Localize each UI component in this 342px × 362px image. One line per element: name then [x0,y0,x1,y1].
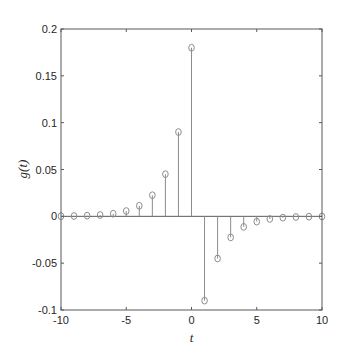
y-tick-label: 0.05 [36,164,57,176]
y-tick-label: 0.2 [42,23,57,35]
x-tick-label: -5 [121,314,131,326]
x-tick-label: 10 [316,314,328,326]
y-ticks: -0.1-0.0500.050.10.150.2 [32,23,322,316]
x-tick-label: 5 [254,314,260,326]
x-tick-label: 0 [188,314,194,326]
stem-marker [293,214,299,221]
stems [58,44,325,304]
y-axis-label: g(t) [15,160,30,179]
stem-chart: -10-50510 -0.1-0.0500.050.10.150.2 t g(t… [0,0,342,362]
x-axis-label: t [190,330,194,345]
y-tick-label: -0.05 [32,257,57,269]
x-ticks: -10-50510 [53,29,328,326]
y-tick-label: 0.15 [36,70,57,82]
y-tick-label: 0 [51,210,57,222]
stem-marker [280,214,286,221]
y-tick-label: 0.1 [42,117,57,129]
y-tick-label: -0.1 [38,304,57,316]
